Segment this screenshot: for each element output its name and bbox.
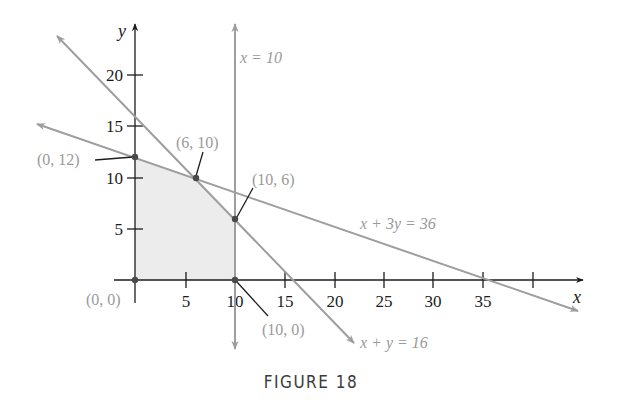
vertex-dot <box>132 154 138 160</box>
vertex-dot <box>232 216 238 222</box>
x-tick-label: 30 <box>425 292 442 311</box>
x-axis-label: x <box>572 287 581 307</box>
feasible-region-figure: 5 10 15 20 25 30 35 x 5 10 15 20 y <box>0 0 618 403</box>
line-label-x-plus-3y-eq-36: x + 3y = 36 <box>359 215 436 233</box>
line-label-x-eq-10: x = 10 <box>239 49 282 66</box>
x-tick-label: 5 <box>182 292 191 311</box>
line-x-plus-3y-eq-36 <box>37 124 578 311</box>
point-label-10-0: (10, 0) <box>262 321 305 339</box>
point-label-0-0: (0, 0) <box>86 291 121 309</box>
y-tick-label: 20 <box>106 66 123 85</box>
vertex-dot <box>193 175 199 181</box>
line-label-x-plus-y-eq-16: x + y = 16 <box>359 334 428 352</box>
x-tick-label: 15 <box>277 292 294 311</box>
y-tick-label: 10 <box>106 169 123 188</box>
point-label-6-10: (6, 10) <box>176 134 219 152</box>
x-tick-label: 20 <box>327 292 344 311</box>
vertex-dot <box>132 277 138 283</box>
vertex-dot <box>232 277 238 283</box>
y-axis-label: y <box>116 21 126 41</box>
point-label-0-12: (0, 12) <box>37 151 80 169</box>
y-tick-label: 5 <box>115 220 124 239</box>
x-tick-label: 25 <box>376 292 393 311</box>
figure-caption: FIGURE 18 <box>264 372 358 392</box>
x-tick-label: 35 <box>475 292 492 311</box>
y-tick-label: 15 <box>106 117 123 136</box>
point-label-10-6: (10, 6) <box>252 171 295 189</box>
